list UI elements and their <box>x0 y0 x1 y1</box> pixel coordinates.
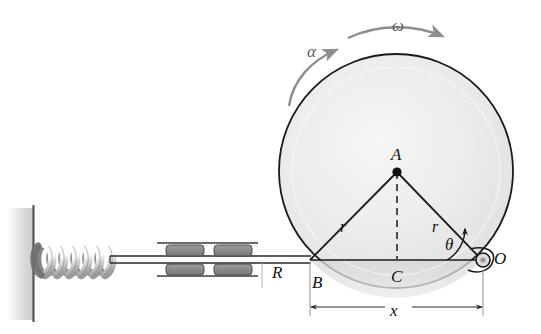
point-a-marker <box>392 167 401 176</box>
label-point-c: C <box>391 268 402 285</box>
label-angle-theta: θ <box>445 236 453 253</box>
label-point-o: O <box>494 250 506 267</box>
label-point-a: A <box>391 146 401 163</box>
label-point-b: B <box>312 274 322 291</box>
label-angular-acceleration: α <box>307 43 316 60</box>
label-angular-velocity: ω <box>392 17 404 34</box>
connecting-rod <box>110 256 311 263</box>
label-radius-right: r <box>432 219 438 235</box>
linear-bearing-icon <box>157 243 258 276</box>
fixed-wall-hatch-icon <box>8 205 34 322</box>
label-disk-radius: R <box>272 264 282 281</box>
label-radius-left: r <box>340 219 346 235</box>
label-displacement-x: x <box>390 302 398 319</box>
mechanics-figure: A B C O R x r r θ ω α <box>0 0 541 334</box>
figure-canvas <box>0 0 541 334</box>
helical-spring-icon <box>34 246 114 275</box>
